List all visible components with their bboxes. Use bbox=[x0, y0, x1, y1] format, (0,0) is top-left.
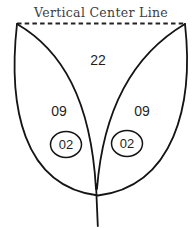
vertical-center-line-label: Vertical Center Line bbox=[33, 5, 168, 20]
pattern-diagram-canvas: Vertical Center Line 22 09 09 02 02 bbox=[0, 0, 196, 228]
pattern-diagram: Vertical Center Line 22 09 09 02 02 bbox=[0, 0, 196, 228]
piece-number-22: 22 bbox=[90, 52, 106, 68]
piece-number-09-left: 09 bbox=[51, 103, 67, 119]
center-stem-line bbox=[96, 184, 98, 226]
piece-number-09-right: 09 bbox=[134, 103, 150, 119]
outer-petal-edges-outline bbox=[15, 24, 187, 196]
piece-number-02-left: 02 bbox=[59, 137, 73, 152]
piece-number-02-right: 02 bbox=[120, 136, 134, 151]
